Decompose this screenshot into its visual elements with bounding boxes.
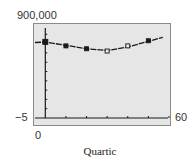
data-point (43, 39, 48, 44)
data-point (85, 47, 89, 51)
ymax-label: 900,000 (17, 10, 57, 21)
xmax-label: 60 (175, 112, 187, 123)
data-point (105, 49, 109, 53)
chart-caption: Quartic (0, 146, 190, 157)
xmin-label: −5 (15, 112, 28, 123)
data-point (126, 44, 130, 48)
ymin-label: 0 (35, 130, 41, 141)
data-point (64, 44, 68, 48)
calculator-graph-screen (0, 0, 190, 164)
data-point (146, 39, 150, 43)
